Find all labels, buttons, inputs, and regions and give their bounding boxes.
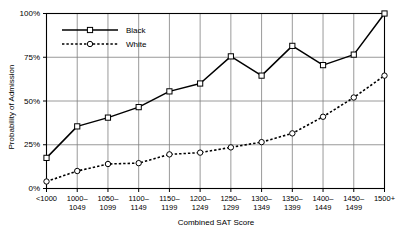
legend-glyphs: [62, 27, 118, 46]
y-tick-label: 0%: [0, 184, 40, 193]
axis-ticks: [43, 14, 385, 193]
y-tick-label: 50%: [0, 97, 40, 106]
data-series-layer: [44, 11, 387, 184]
y-tick-label: 75%: [0, 53, 40, 62]
legend-entry-label: Black: [126, 26, 146, 35]
y-tick-label: 100%: [0, 9, 40, 18]
x-tick-label: 1500+: [365, 194, 400, 204]
y-tick-label: 25%: [0, 140, 40, 149]
x-tick-line: 1500+: [365, 194, 400, 204]
y-axis-title: Probability of Admission: [6, 12, 18, 202]
x-axis-title: Combined SAT Score: [46, 218, 386, 227]
grid-layer: [47, 14, 385, 189]
x-tick-line: 1499: [334, 203, 374, 213]
legend-entry-label: White: [126, 40, 146, 49]
